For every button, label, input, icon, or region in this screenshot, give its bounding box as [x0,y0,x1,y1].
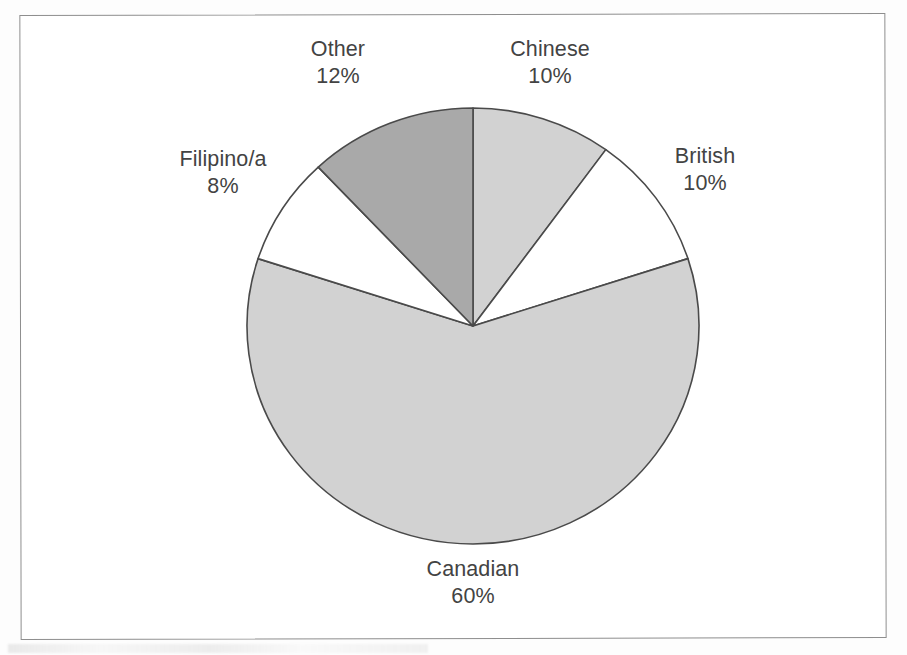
pie-label-filipino-name: Filipino/a [128,146,318,173]
pie-label-british: British 10% [625,143,785,197]
pie-label-filipino-value: 8% [128,173,318,200]
pie-label-british-name: British [625,143,785,170]
pie-label-chinese: Chinese 10% [470,36,630,90]
pie-chart-figure: Other 12% Chinese 10% British 10% Filipi… [0,0,907,655]
pie-label-chinese-name: Chinese [470,36,630,63]
pie-label-canadian: Canadian 60% [378,556,568,610]
pie-label-other-name: Other [258,36,418,63]
pie-label-canadian-name: Canadian [378,556,568,583]
pie-label-filipino: Filipino/a 8% [128,146,318,200]
pie-label-canadian-value: 60% [378,583,568,610]
pie-label-british-value: 10% [625,170,785,197]
pie-label-other-value: 12% [258,63,418,90]
pie-label-chinese-value: 10% [470,63,630,90]
pie-label-other: Other 12% [258,36,418,90]
scan-artifact-smudge [8,644,428,653]
